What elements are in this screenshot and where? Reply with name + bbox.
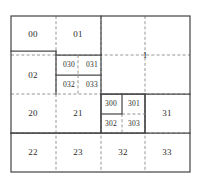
region-label-02: 02 [28, 71, 37, 80]
region-label-23: 23 [73, 148, 82, 157]
region-label-22: 22 [28, 148, 37, 157]
region-label-20: 20 [28, 109, 37, 118]
region-label-030: 030 [63, 61, 75, 69]
region-label-33: 33 [162, 148, 171, 157]
region-label-033: 033 [86, 81, 98, 89]
region-label-301: 301 [128, 100, 140, 108]
quadtree-diagram-canvas: 00 01 02 030 031 032 033 1 20 21 300 301… [0, 0, 201, 187]
region-label-1: 1 [143, 51, 148, 60]
region-label-21: 21 [73, 109, 82, 118]
region-label-032: 032 [63, 81, 75, 89]
region-label-300: 300 [105, 100, 117, 108]
region-label-01: 01 [73, 30, 82, 39]
region-label-303: 303 [128, 120, 140, 128]
region-label-031: 031 [86, 61, 98, 69]
region-label-00: 00 [28, 30, 37, 39]
region-label-31: 31 [162, 109, 171, 118]
region-label-32: 32 [118, 148, 127, 157]
region-label-302: 302 [105, 120, 117, 128]
